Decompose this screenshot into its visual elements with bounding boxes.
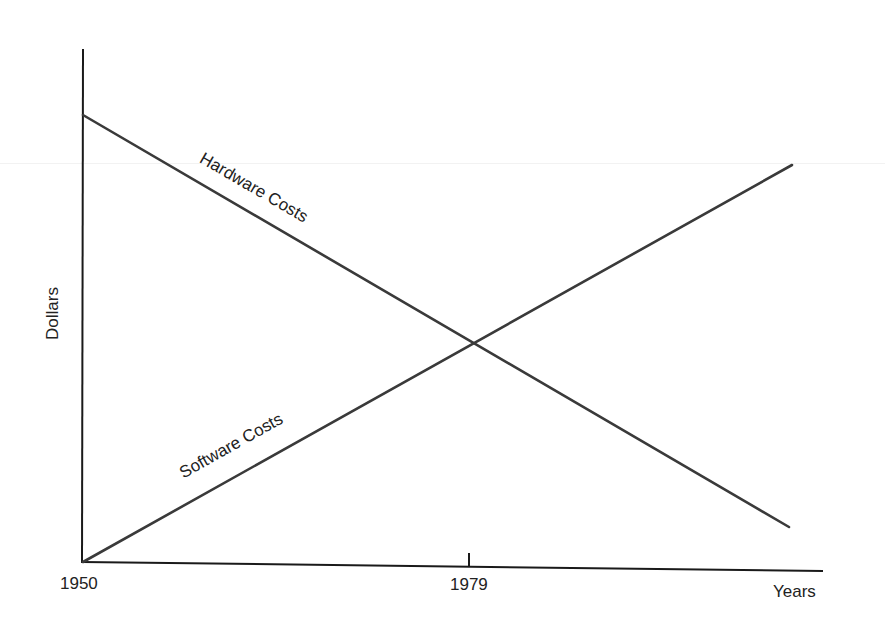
software-costs-line: [83, 165, 792, 562]
x-axis-label: Years: [773, 582, 816, 602]
x-tick-label-1979: 1979: [450, 575, 488, 595]
x-axis: [82, 562, 823, 571]
y-axis: [82, 49, 83, 563]
x-tick-label-1950: 1950: [60, 574, 98, 594]
chart-canvas: [0, 0, 885, 640]
y-axis-label: Dollars: [43, 287, 63, 340]
